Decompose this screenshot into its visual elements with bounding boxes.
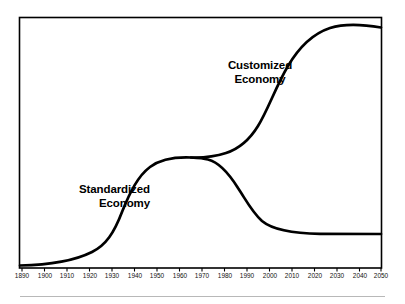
screenshot-root: Standardized Economy Customized Economy … xyxy=(0,0,405,304)
x-tick-label-1910: 1910 xyxy=(56,271,78,280)
x-tick-label-1940: 1940 xyxy=(123,271,145,280)
x-tick-label-2020: 2020 xyxy=(303,271,325,280)
x-tick-label-2000: 2000 xyxy=(258,271,280,280)
x-tick-label-1890: 1890 xyxy=(11,271,33,280)
x-tick-label-1970: 1970 xyxy=(191,271,213,280)
x-tick-label-2040: 2040 xyxy=(348,271,370,280)
plot-frame xyxy=(20,18,382,269)
x-tick-label-1930: 1930 xyxy=(101,271,123,280)
x-tick-label-1980: 1980 xyxy=(213,271,235,280)
economy-transition-chart: Standardized Economy Customized Economy … xyxy=(0,0,405,304)
x-tick-label-2050: 2050 xyxy=(370,271,392,280)
x-tick-label-1960: 1960 xyxy=(168,271,190,280)
annotation-customized-line2: Economy xyxy=(234,73,285,85)
x-tick-label-1990: 1990 xyxy=(236,271,258,280)
annotation-standardized-economy: Standardized Economy xyxy=(34,183,150,210)
x-tick-label-2030: 2030 xyxy=(326,271,348,280)
x-tick-label-1900: 1900 xyxy=(33,271,55,280)
x-tick-label-1920: 1920 xyxy=(78,271,100,280)
chart-plot-area xyxy=(0,0,405,304)
x-tick-label-2010: 2010 xyxy=(281,271,303,280)
annotation-customized-economy: Customized Economy xyxy=(205,59,315,86)
annotation-customized-line1: Customized xyxy=(228,59,292,71)
annotation-standardized-line2: Economy xyxy=(99,197,150,209)
annotation-standardized-line1: Standardized xyxy=(79,183,150,195)
footer-divider xyxy=(20,296,385,297)
x-tick-label-1950: 1950 xyxy=(146,271,168,280)
